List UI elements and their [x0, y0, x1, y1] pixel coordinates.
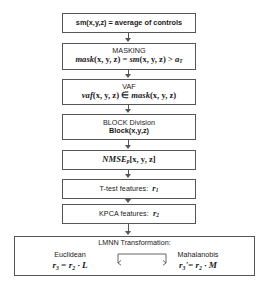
lmnn-title: LMNN Transformation: [15, 239, 254, 247]
flowchart-diagram: sm(x,y,z) = average of controls MASKING … [0, 0, 269, 281]
node-block-formula: Block(x,y,z) [109, 127, 149, 135]
node-kpca-features: KPCA features: r2 [62, 204, 196, 224]
node-kpca-symbol: r2 [153, 208, 159, 218]
arrowhead-block-to-nmse [125, 145, 131, 149]
arrowhead-vaf-to-block [125, 109, 131, 113]
arrowhead-masking-to-vaf [125, 74, 131, 78]
node-masking-formula: mask(x, y, z) = sm(x, y, z) > aT [75, 55, 182, 65]
node-masking: MASKING mask(x, y, z) = sm(x, y, z) > aT [62, 43, 196, 70]
arrowhead-kpca-to-lmnn [125, 231, 131, 235]
node-vaf-formula: vaf(x, y, z) ∈ mask(x, y, z) [82, 91, 176, 101]
lmnn-mahalanobis-group: Mahalanobis r3'= r2 · M [152, 250, 244, 272]
lmnn-euclidean-label: Euclidean [27, 250, 113, 259]
lmnn-euclidean-formula: r3 = r2 · L [27, 260, 113, 272]
node-vaf: VAF vaf(x, y, z) ∈ mask(x, y, z) [62, 79, 196, 105]
arrowhead-sm-to-masking [125, 38, 131, 42]
node-sm-average: sm(x,y,z) = average of controls [62, 13, 196, 33]
node-ttest-symbol: r1 [152, 183, 158, 193]
node-nmse-formula: NMSEp[x, y, z] [102, 155, 155, 165]
node-ttest-features: T-test features: r1 [62, 179, 196, 199]
node-kpca-caption: KPCA features: [99, 209, 149, 218]
node-kpca-row: KPCA features: r2 [99, 209, 159, 219]
arrowhead-nmse-to-ttest [125, 174, 131, 178]
node-block-division: BLOCK Division Block(x,y,z) [62, 114, 196, 140]
lmnn-mahalanobis-label: Mahalanobis [152, 250, 244, 259]
node-ttest-caption: T-test features: [100, 184, 149, 193]
arrowhead-ttest-to-kpca [125, 199, 131, 203]
node-nmse: NMSEp[x, y, z] [62, 150, 196, 170]
node-lmnn-transformation: LMNN Transformation: Euclidean r3 = r2 ·… [14, 236, 255, 276]
node-ttest-row: T-test features: r1 [100, 184, 159, 194]
lmnn-euclidean-group: Euclidean r3 = r2 · L [27, 250, 113, 272]
lmnn-mahalanobis-formula: r3'= r2 · M [152, 260, 244, 272]
node-sm-label: sm(x,y,z) = average of controls [76, 19, 182, 27]
